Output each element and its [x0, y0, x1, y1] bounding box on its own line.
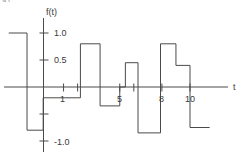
x-axis-label: t — [233, 83, 236, 92]
x-tick-label-5: 5 — [117, 95, 122, 104]
x-tick-label-1: 1 — [60, 95, 65, 104]
y-tick-label-0-5: 0.5 — [54, 56, 67, 65]
y-tick-label-1-0: 1.0 — [54, 29, 67, 38]
y-axis-label: f(t) — [46, 8, 57, 17]
figure-canvas: a) f(t) t 1.0 0.5 -1.0 1 5 8 10 — [0, 0, 250, 160]
x-tick-label-10: 10 — [185, 95, 195, 104]
x-tick-label-8: 8 — [159, 95, 164, 104]
waveform-path — [9, 33, 210, 133]
axes-group — [4, 18, 228, 152]
waveform-plot — [0, 0, 250, 160]
y-tick-label-neg-1-0: -1.0 — [54, 138, 70, 147]
